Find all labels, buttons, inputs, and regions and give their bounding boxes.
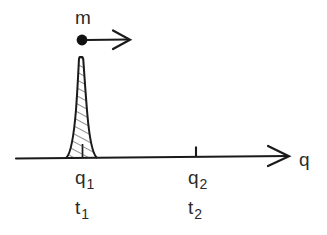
label-t2-base: t	[188, 197, 193, 218]
label-q-axis: q	[299, 150, 310, 169]
label-t1: t1	[75, 198, 88, 217]
label-t1-subscript: 1	[81, 206, 89, 222]
label-t1-base: t	[75, 197, 80, 218]
label-q1-subscript: 1	[87, 176, 95, 192]
label-q1: q1	[75, 168, 93, 187]
label-q2: q2	[188, 168, 206, 187]
label-t2: t2	[188, 198, 201, 217]
label-q2-base: q	[188, 167, 199, 188]
packet-hatching	[60, 50, 105, 162]
q-axis-line	[16, 156, 288, 159]
label-t2-subscript: 2	[194, 206, 202, 222]
label-q1-base: q	[75, 167, 86, 188]
label-q2-subscript: 2	[200, 176, 208, 192]
label-mass: m	[75, 8, 91, 27]
physics-diagram	[0, 0, 327, 235]
velocity-arrow-shaft	[86, 40, 128, 41]
